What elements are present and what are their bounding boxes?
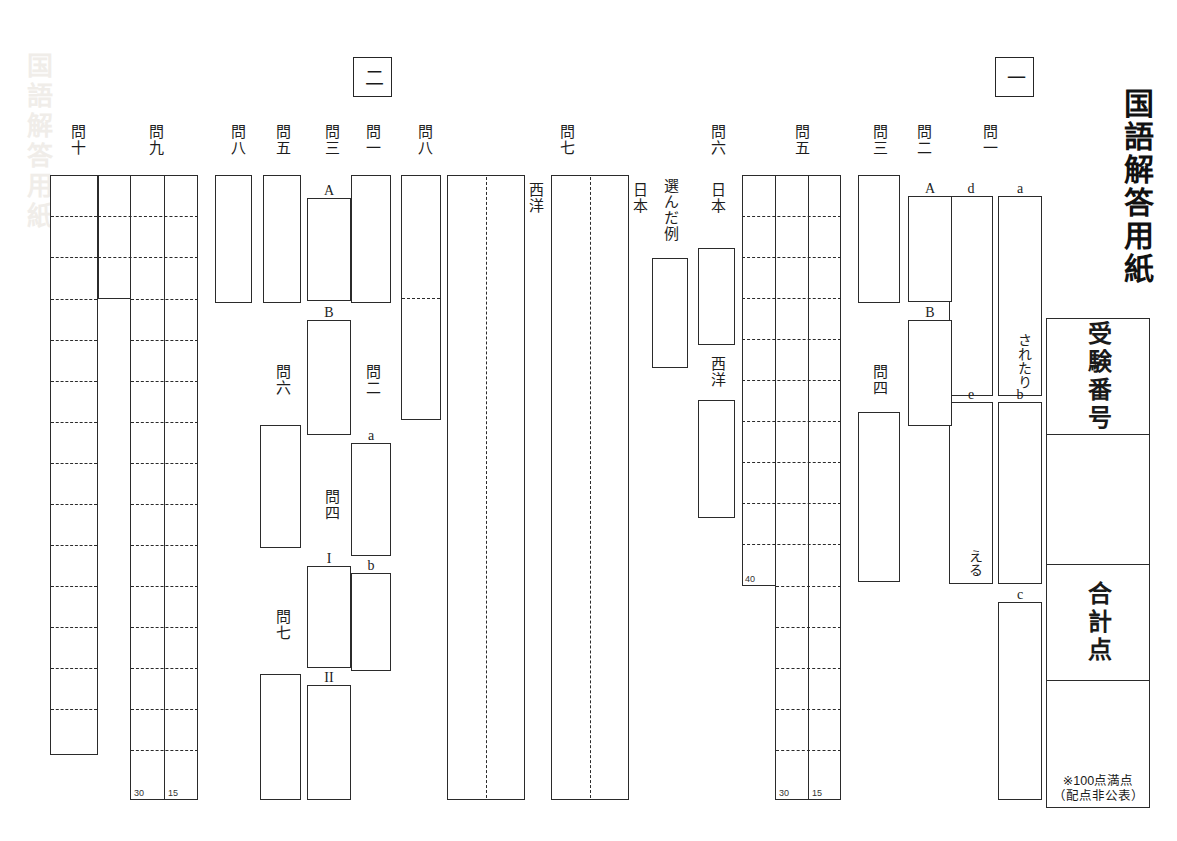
sublabel-s1-q7-japan: 日本 [628, 178, 646, 218]
score-note-line2: （配点非公表） [1047, 789, 1149, 805]
grid-row-line [742, 421, 841, 422]
count-marker-30: 30 [779, 788, 789, 798]
grid-row-line [51, 216, 97, 217]
grid-row-line [742, 503, 841, 504]
count-marker-15: 15 [812, 788, 822, 798]
grid-row-line [51, 381, 97, 382]
grid-row-line [51, 545, 97, 546]
label-s2-q10: 問十 [66, 118, 84, 162]
answer-box-s2-q1[interactable] [351, 175, 391, 303]
score-note: ※100点満点 （配点非公表） [1047, 774, 1149, 805]
grid-row-line [742, 298, 841, 299]
label-s2-q4: 問四 [320, 483, 338, 527]
label-s1-q2: 問二 [912, 118, 930, 162]
sublabel-s2-q2-a: a [351, 428, 391, 444]
grid-row-line [742, 544, 841, 545]
grid-row-line [776, 668, 841, 669]
section-marker-1: 一 [995, 57, 1034, 97]
grid-row-line [98, 257, 198, 258]
label-s1-q5: 問五 [790, 118, 808, 162]
sublabel-s2-q2-b: b [351, 558, 391, 574]
divider-s1-q8 [402, 298, 440, 299]
label-s2-q9: 問九 [144, 118, 162, 162]
count-marker-15: 15 [168, 788, 178, 798]
grid-row-line [131, 340, 198, 341]
total-score-header: 合計点 [1047, 565, 1149, 681]
sublabel-s2-q4-I: I [307, 551, 351, 567]
answer-box-s1-q4[interactable] [858, 412, 900, 582]
label-s1-q7: 問七 [555, 118, 573, 162]
prefilled-text-s1-q1-e: える [966, 549, 982, 577]
answer-box-s1-q1-a[interactable]: されたり [998, 196, 1042, 396]
label-s2-q8: 問八 [226, 118, 244, 162]
label-s1-q8: 問八 [413, 118, 431, 162]
label-s2-q5: 問五 [271, 118, 289, 162]
answer-box-s1-q3[interactable] [858, 175, 900, 303]
total-score-label: 合計点 [1081, 581, 1116, 665]
label-s1-q6: 問六 [706, 118, 724, 162]
sublabel-s2-q3-B: B [307, 305, 351, 321]
total-score-field[interactable]: ※100点満点 （配点非公表） [1047, 681, 1149, 809]
grid-divider-s1-q5 [808, 175, 809, 800]
answer-box-s1-q1-d[interactable] [949, 196, 993, 396]
sublabel-s1-q1-d: d [949, 181, 993, 197]
answer-box-s1-q1-b[interactable] [998, 402, 1042, 584]
sublabel-s1-q6-west: 西洋 [706, 352, 724, 392]
answer-box-s2-q5[interactable] [263, 175, 301, 303]
grid-row-line [776, 627, 841, 628]
grid-row-line [742, 462, 841, 463]
grid-row-line [776, 586, 841, 587]
grid-row-line [131, 422, 198, 423]
answer-grid-s2-q9-short[interactable] [98, 175, 131, 299]
answer-box-s2-q8[interactable] [215, 175, 252, 303]
answer-box-s2-q4-II[interactable] [307, 685, 351, 800]
grid-row-line [742, 257, 841, 258]
answer-box-s1-q6-japan[interactable] [698, 248, 735, 345]
grid-row-line [51, 627, 97, 628]
grid-row-line [51, 504, 97, 505]
answer-box-s1-q1-e[interactable]: える [949, 402, 993, 584]
grid-row-line [131, 586, 198, 587]
label-s1-q1: 問一 [978, 118, 996, 162]
answer-box-s1-q2-B[interactable] [908, 320, 952, 426]
sublabel-s1-q1-a: a [998, 181, 1042, 197]
count-marker-30: 30 [134, 788, 144, 798]
sublabel-s1-q7-west: 西洋 [524, 178, 542, 218]
grid-row-line [51, 299, 97, 300]
answer-box-s2-q7[interactable] [260, 674, 301, 800]
grid-row-line [776, 709, 841, 710]
sublabel-s1-q6-japan: 日本 [706, 178, 724, 218]
score-panel: 受験番号 合計点 ※100点満点 （配点非公表） [1046, 318, 1150, 808]
sublabel-s1-q2-A: A [908, 181, 952, 197]
grid-row-line [51, 668, 97, 669]
section-marker-2: 二 [353, 57, 392, 97]
answer-box-s1-q2-A[interactable] [908, 196, 952, 302]
answer-box-s2-q6[interactable] [260, 425, 301, 548]
sublabel-s1-q1-e: e [949, 387, 993, 403]
grid-row-line [131, 545, 198, 546]
answer-box-s2-q4-I[interactable] [307, 566, 351, 668]
grid-row-line [776, 750, 841, 751]
answer-box-s1-q6-west[interactable] [698, 400, 735, 518]
grid-row-line [131, 463, 198, 464]
grid-row-line [51, 709, 97, 710]
grid-row-line [131, 299, 198, 300]
grid-row-line [742, 339, 841, 340]
grid-row-line [51, 340, 97, 341]
answer-box-s2-q2-b[interactable] [351, 573, 391, 671]
answer-box-s2-q2-a[interactable] [351, 443, 391, 556]
sublabel-s1-q2-B: B [908, 305, 952, 321]
answer-box-s1-q6-example[interactable] [652, 258, 688, 368]
grid-row-line [131, 709, 198, 710]
grid-row-line [51, 257, 97, 258]
exam-number-field[interactable] [1047, 435, 1149, 565]
center-guide-s1-q7-west [486, 177, 487, 798]
answer-box-s1-q1-c[interactable] [998, 602, 1042, 800]
grid-row-line [131, 750, 198, 751]
label-s1-q4: 問四 [868, 358, 886, 402]
answer-box-s2-q3-B[interactable] [307, 320, 351, 435]
answer-box-s2-q3-A[interactable] [307, 198, 351, 301]
label-s2-q6: 問六 [271, 358, 289, 402]
center-guide-s1-q7-japan [590, 177, 591, 798]
grid-row-line [742, 216, 841, 217]
